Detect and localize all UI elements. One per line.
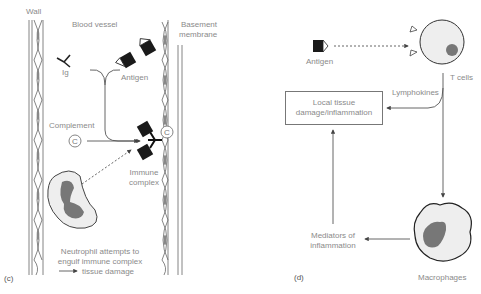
ig-label: Ig <box>62 68 69 77</box>
tissue-damage-label: tissue damage <box>82 267 134 276</box>
box-label-2: damage/inflammation <box>296 108 372 118</box>
neutrophil-label-2: engulf immune complex <box>50 257 150 266</box>
mediators-label-1: Mediators of <box>300 231 366 240</box>
t-cell-icon <box>410 20 464 64</box>
t-cells-label: T cells <box>450 73 473 82</box>
basement-label-1: Basement <box>181 20 217 29</box>
wall-label: Wall <box>26 7 41 16</box>
svg-text:C: C <box>164 128 170 137</box>
vessel-wall-left <box>29 20 43 275</box>
antigen-label-d: Antigen <box>306 57 333 66</box>
mediators-label-2: inflammation <box>300 241 366 250</box>
basement-label-2: membrane <box>179 30 217 39</box>
box-label-1: Local tissue <box>296 98 372 108</box>
antigen-icon-2 <box>115 52 137 71</box>
macrophages-label: Macrophages <box>418 273 466 282</box>
neutrophil-label-1: Neutrophil attempts to <box>50 247 150 256</box>
panel-d-label: (d) <box>294 273 304 282</box>
local-tissue-damage-box: Local tissue damage/inflammation <box>285 91 383 125</box>
svg-text:C: C <box>72 137 78 146</box>
ig-antibody-icon <box>57 55 70 67</box>
complement-icon: C <box>69 135 81 147</box>
panel-c-label: (c) <box>4 274 13 283</box>
antigen-icon-1 <box>137 35 156 57</box>
complement-label: Complement <box>49 121 94 130</box>
macrophage-icon <box>414 203 471 261</box>
antigen-label: Antigen <box>121 73 148 82</box>
neutrophil-icon <box>48 171 97 228</box>
immune-complex-label-1: Immune <box>124 168 164 177</box>
lymphokines-label: Lymphokines <box>392 88 439 97</box>
immune-complex-label-2: complex <box>124 178 164 187</box>
antigen-icon-d <box>313 40 328 52</box>
blood-vessel-label: Blood vessel <box>72 20 117 29</box>
